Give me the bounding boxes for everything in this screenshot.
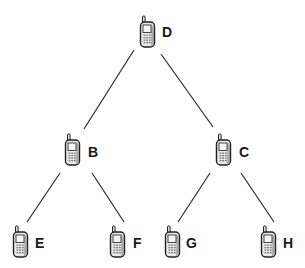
mobile-phone-icon bbox=[262, 226, 276, 257]
node-label-g: G bbox=[186, 235, 197, 251]
node-label-c: C bbox=[239, 144, 249, 160]
edge-c-h bbox=[241, 173, 274, 222]
node-b: B bbox=[66, 134, 99, 165]
mobile-phone-icon bbox=[14, 226, 28, 257]
tree-diagram: D B C E F G H bbox=[0, 0, 305, 268]
mobile-phone-icon bbox=[166, 226, 180, 257]
node-label-d: D bbox=[162, 24, 172, 40]
mobile-phone-icon bbox=[217, 134, 231, 165]
mobile-phone-icon bbox=[66, 134, 80, 165]
node-label-h: H bbox=[283, 235, 293, 251]
node-label-e: E bbox=[35, 235, 44, 251]
node-f: F bbox=[111, 226, 143, 257]
edge-c-g bbox=[178, 173, 210, 222]
node-label-f: F bbox=[133, 235, 142, 251]
node-d: D bbox=[141, 16, 173, 47]
node-h: H bbox=[262, 226, 294, 257]
mobile-phone-icon bbox=[111, 226, 125, 257]
node-e: E bbox=[14, 226, 45, 257]
mobile-phone-icon bbox=[141, 16, 155, 47]
edge-b-f bbox=[92, 173, 124, 222]
node-label-b: B bbox=[88, 144, 98, 160]
edge-d-b bbox=[84, 50, 134, 129]
edge-d-c bbox=[161, 54, 213, 127]
node-c: C bbox=[217, 134, 250, 165]
node-g: G bbox=[166, 226, 198, 257]
edge-b-e bbox=[27, 173, 60, 222]
